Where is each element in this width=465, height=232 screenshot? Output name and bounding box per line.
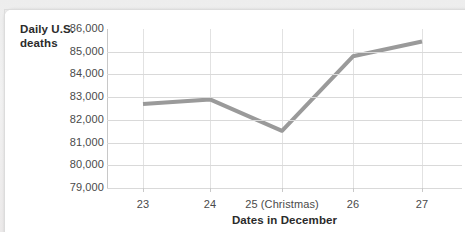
- series-line-daily-us-deaths: [107, 29, 462, 188]
- y-axis-tick-label: 80,000: [40, 158, 104, 170]
- screenshot-root: Daily U.S. deaths 86,00085,00084,00083,0…: [0, 0, 465, 232]
- horizontal-gridline: [107, 165, 462, 166]
- x-axis-tick-label: 25 (Christmas): [245, 198, 319, 210]
- x-axis-tick-label: 23: [137, 198, 149, 210]
- y-axis-tick-label: 82,000: [40, 113, 104, 125]
- y-axis-tick-label: 85,000: [40, 45, 104, 57]
- line-chart: Daily U.S. deaths 86,00085,00084,00083,0…: [0, 0, 465, 232]
- x-axis-tick-mark: [353, 188, 354, 192]
- horizontal-gridline: [107, 52, 462, 53]
- horizontal-gridline: [107, 97, 462, 98]
- y-axis-tick-label: 86,000: [40, 22, 104, 34]
- horizontal-gridline: [107, 188, 462, 189]
- y-axis-tick-labels: 86,00085,00084,00083,00082,00081,00080,0…: [38, 0, 104, 232]
- x-axis-tick-label: 24: [204, 198, 216, 210]
- x-axis-title: Dates in December: [107, 214, 462, 226]
- x-axis-tick-mark: [210, 188, 211, 192]
- x-axis-tick-mark: [143, 188, 144, 192]
- plot-area: [107, 29, 462, 188]
- y-axis-tick-label: 84,000: [40, 67, 104, 79]
- y-axis-tick-label: 81,000: [40, 136, 104, 148]
- horizontal-gridline: [107, 143, 462, 144]
- x-axis-tick-labels: 232425 (Christmas)2627: [107, 198, 462, 214]
- horizontal-gridline: [107, 74, 462, 75]
- x-axis-tick-label: 26: [347, 198, 359, 210]
- y-axis-tick-label: 79,000: [40, 181, 104, 193]
- x-axis-tick-mark: [282, 188, 283, 192]
- x-axis-tick-label: 27: [416, 198, 428, 210]
- y-axis-tick-label: 83,000: [40, 90, 104, 102]
- x-axis-tick-mark: [422, 188, 423, 192]
- horizontal-gridline: [107, 120, 462, 121]
